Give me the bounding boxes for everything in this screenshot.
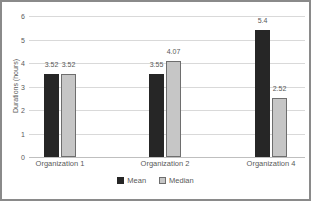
bar-chart[interactable]: 01234563.523.52Organization 13.554.07Org… bbox=[0, 0, 311, 201]
y-tick-label-5: 5 bbox=[10, 36, 25, 43]
y-tick-label-6: 6 bbox=[10, 13, 25, 20]
value-label-mean-3: 5.4 bbox=[258, 17, 268, 24]
value-label-mean-2: 3.55 bbox=[150, 61, 164, 68]
bar-median-organization-1 bbox=[61, 74, 76, 157]
bar-median-organization-2 bbox=[166, 61, 181, 157]
bar-median-organization-4 bbox=[272, 98, 287, 157]
y-tick-label-0: 0 bbox=[10, 154, 25, 161]
value-label-median-2: 4.07 bbox=[167, 48, 181, 55]
legend-swatch-median bbox=[159, 177, 166, 184]
plot-area: 01234563.523.52Organization 13.554.07Org… bbox=[29, 16, 305, 157]
bar-mean-organization-4 bbox=[255, 30, 270, 157]
legend-swatch-mean bbox=[117, 177, 124, 184]
legend: MeanMedian bbox=[2, 177, 309, 185]
category-label-1: Organization 1 bbox=[36, 160, 85, 168]
value-label-median-1: 3.52 bbox=[62, 61, 76, 68]
y-tick-label-1: 1 bbox=[10, 130, 25, 137]
legend-label-median: Median bbox=[169, 177, 194, 185]
value-label-median-3: 2.52 bbox=[273, 85, 287, 92]
legend-item-mean: Mean bbox=[117, 177, 146, 185]
category-label-3: Organization 4 bbox=[247, 160, 296, 168]
category-label-2: Organization 2 bbox=[141, 160, 190, 168]
legend-label-mean: Mean bbox=[127, 177, 146, 185]
legend-item-median: Median bbox=[159, 177, 194, 185]
bar-mean-organization-2 bbox=[149, 74, 164, 157]
value-label-mean-1: 3.52 bbox=[45, 61, 59, 68]
y-axis-title: Durations (hours) bbox=[12, 59, 19, 113]
gridline-y-0 bbox=[29, 157, 305, 158]
bar-mean-organization-1 bbox=[44, 74, 59, 157]
